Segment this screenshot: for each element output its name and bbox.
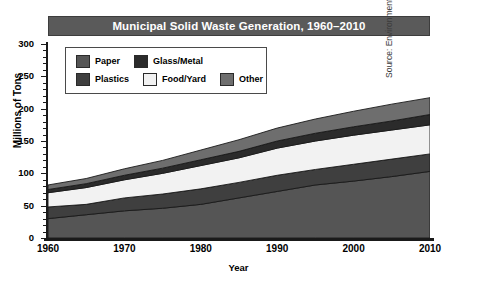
- x-axis-label: 1990: [254, 243, 300, 254]
- x-axis-title: Year: [0, 262, 477, 273]
- y-axis-label: 100: [0, 168, 34, 178]
- legend-item-food-yard: Food/Yard: [143, 73, 206, 86]
- y-axis-minor-tick: [43, 186, 46, 187]
- x-axis-label: 2000: [331, 243, 377, 254]
- legend-label: Glass/Metal: [153, 56, 203, 66]
- y-axis-minor-tick: [43, 212, 46, 213]
- legend-swatch-icon: [134, 55, 148, 68]
- legend-item-paper: Paper: [76, 55, 120, 68]
- x-axis-label: 1980: [178, 243, 224, 254]
- y-axis-minor-tick: [43, 70, 46, 71]
- page-title: Municipal Solid Waste Generation, 1960–2…: [112, 20, 365, 32]
- y-axis-minor-tick: [43, 89, 46, 90]
- y-axis-tick: [41, 238, 46, 239]
- y-axis-minor-tick: [43, 135, 46, 136]
- x-axis-label: 1960: [25, 243, 71, 254]
- legend-swatch-icon: [143, 73, 157, 86]
- y-axis-minor-tick: [43, 193, 46, 194]
- x-axis-label: 1970: [101, 243, 147, 254]
- y-axis-minor-tick: [43, 154, 46, 155]
- y-axis-minor-tick: [43, 115, 46, 116]
- legend-item-glass-metal: Glass/Metal: [134, 55, 203, 68]
- y-axis-minor-tick: [43, 147, 46, 148]
- legend-label: Food/Yard: [162, 74, 206, 84]
- y-axis-minor-tick: [43, 63, 46, 64]
- y-axis-minor-tick: [43, 219, 46, 220]
- y-axis-minor-tick: [43, 180, 46, 181]
- y-axis-tick: [41, 173, 46, 174]
- x-axis-label: 2010: [407, 243, 453, 254]
- y-axis-minor-tick: [43, 128, 46, 129]
- y-axis-label: 0: [0, 233, 34, 243]
- y-axis-minor-tick: [43, 232, 46, 233]
- y-axis-minor-tick: [43, 57, 46, 58]
- y-axis-minor-tick: [43, 167, 46, 168]
- y-axis-label: 150: [0, 136, 34, 146]
- y-axis-minor-tick: [43, 96, 46, 97]
- y-axis-label: 300: [0, 39, 34, 49]
- legend-swatch-icon: [220, 73, 234, 86]
- y-axis-tick: [41, 109, 46, 110]
- legend-swatch-icon: [76, 73, 90, 86]
- y-axis-minor-tick: [43, 50, 46, 51]
- y-axis-minor-tick: [43, 199, 46, 200]
- chart-figure: Municipal Solid Waste Generation, 1960–2…: [0, 0, 477, 284]
- legend-label: Paper: [95, 56, 120, 66]
- y-axis-label: 200: [0, 104, 34, 114]
- y-axis-minor-tick: [43, 102, 46, 103]
- legend-item-other: Other: [220, 73, 263, 86]
- legend-label: Other: [239, 74, 263, 84]
- y-axis-tick: [41, 76, 46, 77]
- y-axis-minor-tick: [43, 160, 46, 161]
- y-axis-minor-tick: [43, 122, 46, 123]
- y-axis-tick: [41, 206, 46, 207]
- y-axis-minor-tick: [43, 83, 46, 84]
- chart-legend: PaperGlass/MetalPlasticsFood/YardOther: [65, 47, 267, 94]
- source-note: Source: Environmental Protection Agency: [384, 0, 394, 78]
- legend-row: PlasticsFood/YardOther: [72, 70, 260, 88]
- y-axis-label: 250: [0, 71, 34, 81]
- chart-title-bar: Municipal Solid Waste Generation, 1960–2…: [48, 16, 430, 36]
- legend-label: Plastics: [95, 74, 129, 84]
- y-axis-tick: [41, 141, 46, 142]
- y-axis-label: 50: [0, 201, 34, 211]
- x-axis-line: [44, 238, 434, 241]
- legend-row: PaperGlass/Metal: [72, 52, 260, 70]
- legend-swatch-icon: [76, 55, 90, 68]
- legend-item-plastics: Plastics: [76, 73, 129, 86]
- y-axis-tick: [41, 44, 46, 45]
- y-axis-minor-tick: [43, 225, 46, 226]
